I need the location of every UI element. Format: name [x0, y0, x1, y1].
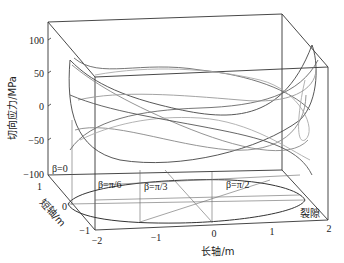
z-tick-100: 100	[29, 35, 44, 46]
label-beta-pi6: β=π/6	[98, 179, 122, 190]
curve-beta-pi2	[95, 69, 309, 141]
label-beta-0: β=0	[52, 163, 68, 174]
x-tick-minus2: −2	[92, 235, 103, 246]
x-tick-1: 1	[270, 226, 275, 237]
label-beta-pi3: β=π/3	[144, 181, 168, 192]
x-tick-minus1: −1	[151, 232, 162, 243]
y-tick-minus1: −1	[79, 225, 90, 236]
x-axis-label: 长轴/m	[201, 245, 234, 257]
z-tick-minus50: −50	[28, 135, 44, 146]
x-tick-0: 0	[212, 228, 217, 239]
z-tick-0: 0	[39, 101, 44, 112]
label-fissure: 裂隙	[300, 207, 320, 219]
y-tick-1: 1	[37, 181, 42, 192]
base-guides	[68, 120, 305, 223]
stress-curves	[69, 45, 318, 175]
stress-3d-chart: 100 50 0 −50 −100 切向应力/MPa 1 0 −1 短轴/m −…	[0, 0, 344, 263]
z-tick-50: 50	[34, 68, 44, 79]
label-beta-pi2: β=π/2	[226, 179, 250, 190]
y-tick-0: 0	[62, 201, 67, 212]
x-tick-2: 2	[327, 223, 332, 234]
z-axis-label: 切向应力/MPa	[6, 76, 18, 140]
curve-beta-pi6	[74, 58, 310, 110]
z-tick-minus100: −100	[23, 169, 44, 180]
